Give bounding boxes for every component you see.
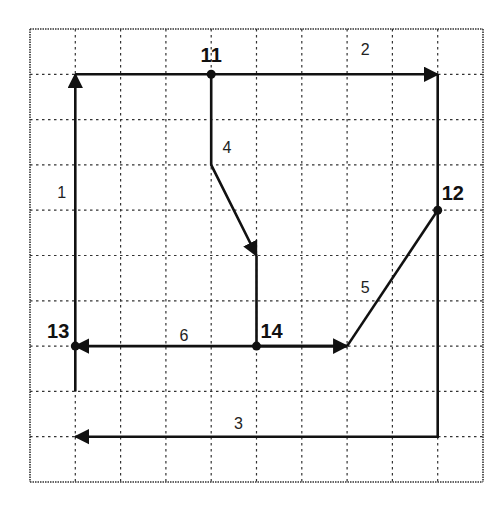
segment-label-1: 1 bbox=[57, 184, 66, 201]
node-13-label: 13 bbox=[47, 320, 69, 342]
node-12-dot bbox=[433, 206, 442, 215]
node-13-dot bbox=[71, 342, 80, 351]
path-segments bbox=[75, 74, 437, 436]
segment-labels: 123456 bbox=[57, 41, 370, 432]
segment-label-4: 4 bbox=[223, 139, 232, 156]
node-11-dot bbox=[207, 70, 216, 79]
node-12-label: 12 bbox=[442, 182, 464, 204]
segment-label-2: 2 bbox=[361, 41, 370, 58]
node-14-label: 14 bbox=[261, 320, 284, 342]
segment-label-3: 3 bbox=[234, 415, 243, 432]
segment-label-6: 6 bbox=[180, 327, 189, 344]
path-segment-5 bbox=[347, 210, 438, 346]
node-11-label: 11 bbox=[201, 44, 222, 66]
segment-label-5: 5 bbox=[361, 279, 370, 296]
node-14-dot bbox=[252, 342, 261, 351]
grid-path-diagram: 11121314 123456 bbox=[0, 0, 503, 511]
